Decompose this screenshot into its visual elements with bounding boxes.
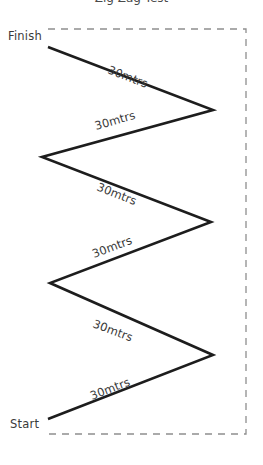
segment-label-group: 30mtrs 30mtrs 30mtrs 30mtrs 30mtrs 30mtr…	[88, 63, 150, 403]
segment-label-5: 30mtrs	[93, 108, 137, 133]
zigzag-course-diagram: Finish Start 30mtrs 30mtrs 30mtrs 30mtrs…	[0, 0, 263, 465]
segment-label-1: 30mtrs	[88, 375, 132, 403]
dashed-boundary	[48, 29, 246, 434]
segment-label-3: 30mtrs	[90, 233, 134, 261]
segment-label-6: 30mtrs	[106, 63, 150, 91]
start-label: Start	[10, 417, 39, 431]
segment-label-4: 30mtrs	[95, 180, 139, 208]
diagram-canvas: Zig Zag Test Finish Start 30mtrs 30mtrs …	[0, 0, 263, 465]
finish-label: Finish	[8, 29, 42, 43]
segment-label-2: 30mtrs	[91, 317, 135, 345]
